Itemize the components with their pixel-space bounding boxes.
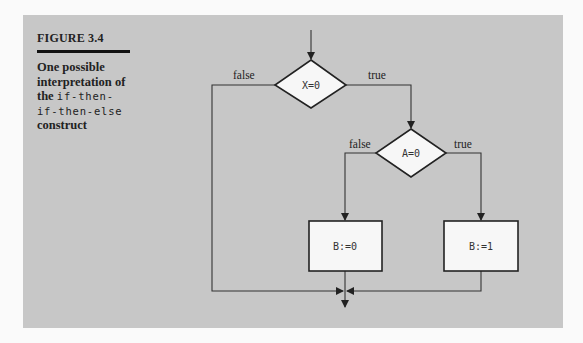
flowchart: X=0 A=0 B:=0 B:=1 false true false true xyxy=(0,0,583,343)
decision-a-label: A=0 xyxy=(402,148,420,159)
decision-a-node: A=0 xyxy=(376,129,446,177)
process-b0-node: B:=0 xyxy=(309,221,382,271)
process-b1-label: B:=1 xyxy=(469,241,493,252)
edge-a-false xyxy=(345,153,376,220)
decision-x-label: X=0 xyxy=(302,80,320,91)
process-b0-label: B:=0 xyxy=(333,241,357,252)
edge-a-true xyxy=(446,153,481,220)
edge-label-a-true: true xyxy=(454,138,472,150)
edge-label-x-true: true xyxy=(368,69,386,81)
edge-label-x-false: false xyxy=(233,69,255,81)
decision-x-node: X=0 xyxy=(275,60,346,108)
process-b1-node: B:=1 xyxy=(444,221,518,271)
edge-x-true xyxy=(346,85,411,128)
edge-label-a-false: false xyxy=(349,138,371,150)
edge-b1-merge xyxy=(347,271,481,291)
